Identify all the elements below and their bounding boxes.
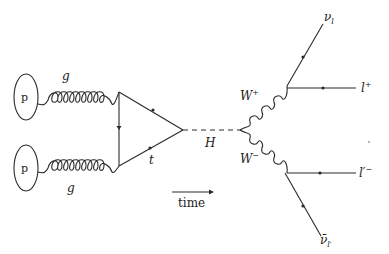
proton-top-label: p [21, 91, 28, 104]
l-prime-minus-label: l′− [359, 165, 372, 180]
arrow-loop-top [151, 108, 154, 111]
higgs-label: H [204, 136, 216, 150]
w-plus-label: W+ [240, 88, 259, 103]
l-plus-label: l+ [361, 80, 372, 95]
time-arrow-head [209, 190, 214, 195]
time-label: time [178, 196, 205, 210]
top-quark-label: t [149, 153, 154, 167]
gluon-bottom-label: g [67, 181, 75, 195]
gluon-top-label: g [62, 69, 70, 83]
feynman-diagram: p p g g t H W+ W− νl l+ l′− ν̄l′ time [0, 0, 389, 254]
arrow-l-prime-minus [318, 171, 321, 174]
gluon-top [38, 92, 119, 105]
arrow-loop-left [117, 126, 122, 130]
loop-top-edge [119, 92, 183, 130]
arrow-loop-bottom [148, 146, 151, 149]
nu-l-line [287, 24, 323, 86]
w-minus-label: W− [240, 151, 259, 166]
arrow-nu-bar-lprime [301, 204, 304, 207]
nu-bar-lprime-label: ν̄l′ [320, 233, 332, 249]
arrow-nu-l [301, 55, 304, 58]
arrow-l-plus [321, 86, 324, 89]
stray-dot [368, 141, 370, 143]
gluon-bottom [38, 160, 119, 173]
nu-l-label: νl [324, 10, 334, 26]
proton-bottom-label: p [21, 162, 28, 175]
